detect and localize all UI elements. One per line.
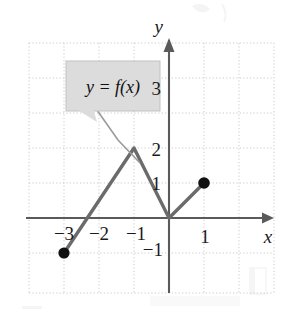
callout-label: y = f(x) bbox=[84, 77, 140, 98]
y-tick-label-neg1: −1 bbox=[143, 239, 163, 260]
y-tick-label-1: 1 bbox=[152, 173, 162, 194]
x-tick-label-neg2: −2 bbox=[89, 223, 109, 244]
x-tick-label-neg3: −3 bbox=[54, 223, 74, 244]
function-graph-svg: y = f(x) −3 −2 −1 1 3 2 1 −1 y x bbox=[0, 0, 289, 319]
x-tick-label-1: 1 bbox=[200, 226, 210, 247]
endpoint-dot-right bbox=[198, 177, 210, 189]
x-axis-label: x bbox=[263, 226, 273, 247]
y-tick-label-2: 2 bbox=[152, 139, 162, 160]
y-tick-label-3: 3 bbox=[152, 78, 162, 99]
graph-figure: y = f(x) −3 −2 −1 1 3 2 1 −1 y x bbox=[0, 0, 289, 319]
endpoint-dot-left bbox=[58, 247, 69, 258]
figure-background bbox=[0, 0, 289, 319]
y-axis-label: y bbox=[153, 16, 164, 37]
